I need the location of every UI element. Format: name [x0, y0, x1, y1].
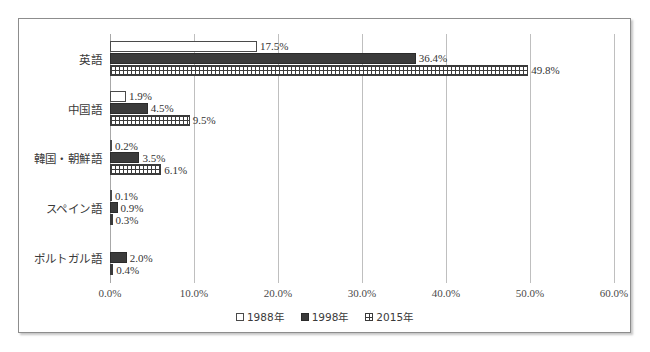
- bar-group: 1.9%4.5%9.5%: [110, 91, 614, 127]
- bar-item: 0.2%: [110, 140, 138, 151]
- x-axis-tick-label: 20.0%: [264, 287, 292, 299]
- category-row: 韓国・朝鮮語0.2%3.5%6.1%: [110, 134, 614, 184]
- bar-item: 36.4%: [110, 53, 447, 64]
- legend-label: 1988年: [247, 309, 284, 324]
- bar-value-label: 4.5%: [151, 102, 174, 114]
- bar-value-label: 0.3%: [116, 214, 139, 226]
- category-label: 中国語: [68, 101, 102, 117]
- bar-1998年: [110, 103, 148, 114]
- bar-2015年: [110, 115, 190, 126]
- bar-group: 2.0%0.4%: [110, 240, 614, 276]
- legend-label: 1998年: [312, 309, 349, 324]
- bar-group: 17.5%36.4%49.8%: [110, 41, 614, 77]
- category-label: 韓国・朝鮮語: [34, 150, 102, 166]
- x-axis-tick-label: 10.0%: [180, 287, 208, 299]
- bar-value-label: 17.5%: [260, 40, 288, 52]
- bar-item: 9.5%: [110, 115, 216, 126]
- legend-item-1998年[interactable]: 1998年: [301, 309, 349, 324]
- category-row: 中国語1.9%4.5%9.5%: [110, 84, 614, 134]
- legend-item-1988年[interactable]: 1988年: [236, 309, 284, 324]
- legend-swatch-icon: [236, 313, 244, 321]
- x-axis: 0.0%10.0%20.0%30.0%40.0%50.0%60.0%: [110, 283, 614, 303]
- bar-item: 3.5%: [110, 152, 165, 163]
- bar-1988年: [110, 91, 126, 102]
- x-axis-tick-label: 60.0%: [600, 287, 628, 299]
- bar-2015年: [110, 164, 161, 175]
- bar-item: 17.5%: [110, 41, 288, 52]
- bar-item: 0.4%: [110, 264, 139, 275]
- bar-value-label: 9.5%: [193, 114, 216, 126]
- bar-2015年: [110, 264, 113, 275]
- legend-label: 2015年: [376, 309, 413, 324]
- bar-2015年: [110, 65, 528, 76]
- bar-1998年: [110, 252, 127, 263]
- bar-1988年: [110, 41, 257, 52]
- bar-value-label: 0.9%: [121, 202, 144, 214]
- category-label: 英語: [79, 51, 102, 67]
- category-label: スペイン語: [46, 200, 102, 216]
- bar-1998年: [110, 152, 139, 163]
- legend-swatch-icon: [365, 313, 373, 321]
- gridline-60.0%: [614, 34, 615, 283]
- bar-item: 0.1%: [110, 190, 138, 201]
- plot-area: 英語17.5%36.4%49.8%中国語1.9%4.5%9.5%韓国・朝鮮語0.…: [110, 34, 614, 283]
- bar-1998年: [110, 202, 118, 213]
- bar-item: 2.0%: [110, 252, 153, 263]
- bar-value-label: 0.2%: [115, 140, 138, 152]
- category-row: スペイン語0.1%0.9%0.3%: [110, 183, 614, 233]
- bar-value-label: 0.1%: [115, 190, 138, 202]
- x-axis-tick-label: 30.0%: [348, 287, 376, 299]
- legend-item-2015年[interactable]: 2015年: [365, 309, 413, 324]
- legend-swatch-icon: [301, 313, 309, 321]
- bar-value-label: 2.0%: [130, 252, 153, 264]
- x-axis-tick-label: 50.0%: [516, 287, 544, 299]
- bar-1998年: [110, 53, 416, 64]
- bar-1988年: [110, 190, 112, 201]
- bar-value-label: 49.8%: [531, 64, 559, 76]
- bar-2015年: [110, 214, 113, 225]
- chart-legend: 1988年1998年2015年: [19, 309, 630, 324]
- bar-item: 6.1%: [110, 164, 187, 175]
- category-row: 英語17.5%36.4%49.8%: [110, 34, 614, 84]
- bar-item: [110, 240, 113, 251]
- category-label: ポルトガル語: [34, 250, 102, 266]
- bar-1988年: [110, 140, 112, 151]
- bar-group: 0.2%3.5%6.1%: [110, 140, 614, 176]
- bar-value-label: 6.1%: [164, 164, 187, 176]
- bar-item: 1.9%: [110, 91, 152, 102]
- bar-item: 4.5%: [110, 103, 174, 114]
- bar-item: 0.9%: [110, 202, 143, 213]
- x-axis-tick-label: 0.0%: [99, 287, 122, 299]
- x-axis-tick-label: 40.0%: [432, 287, 460, 299]
- bar-item: 0.3%: [110, 214, 138, 225]
- bar-group: 0.1%0.9%0.3%: [110, 190, 614, 226]
- bar-value-label: 3.5%: [142, 152, 165, 164]
- bar-value-label: 36.4%: [419, 52, 447, 64]
- category-row: ポルトガル語2.0%0.4%: [110, 233, 614, 283]
- bar-item: 49.8%: [110, 65, 560, 76]
- chart-frame: 英語17.5%36.4%49.8%中国語1.9%4.5%9.5%韓国・朝鮮語0.…: [18, 18, 631, 333]
- bar-value-label: 0.4%: [116, 264, 139, 276]
- bar-value-label: 1.9%: [129, 90, 152, 102]
